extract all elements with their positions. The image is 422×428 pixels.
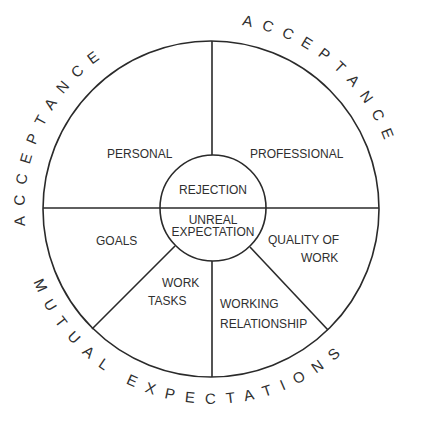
ring-label-mutual-expectations-path: MUTUAL EXPECTATIONS [30, 276, 350, 407]
label-expectation: EXPECTATION [172, 225, 255, 239]
label-relationship: RELATIONSHIP [220, 317, 307, 331]
label-work: WORK [162, 276, 199, 290]
label-tasks: TASKS [148, 294, 186, 308]
label-quality-work: WORK [301, 251, 338, 265]
label-goals: GOALS [96, 234, 137, 248]
label-rejection: REJECTION [179, 183, 247, 197]
ring-label-acceptance-right-path: ACCEPTANCE [241, 11, 401, 150]
label-working: WORKING [220, 297, 279, 311]
ring-label-acceptance-right: ACCEPTANCE [241, 11, 401, 150]
label-professional: PROFESSIONAL [250, 147, 344, 161]
expectations-diagram: REJECTION UNREAL EXPECTATION PERSONAL PR… [0, 0, 422, 428]
ring-label-mutual-expectations: MUTUAL EXPECTATIONS [30, 276, 350, 407]
label-quality-of: QUALITY OF [268, 233, 339, 247]
label-personal: PERSONAL [107, 147, 173, 161]
